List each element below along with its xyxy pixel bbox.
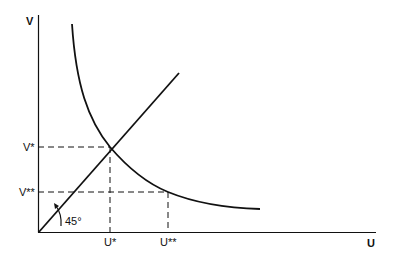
- diagram-canvas: V U V* V** U* U** 45°: [0, 0, 394, 260]
- u-double-star-label: U**: [160, 236, 177, 248]
- diagram-svg: V U V* V** U* U** 45°: [0, 0, 394, 260]
- angle-label: 45°: [65, 215, 82, 227]
- convex-curve: [72, 24, 260, 209]
- v-star-label: V*: [23, 141, 35, 153]
- forty-five-degree-line: [39, 73, 180, 233]
- angle-arrowhead-icon: [54, 203, 59, 209]
- x-axis-label: U: [367, 237, 375, 249]
- v-double-star-label: V**: [19, 186, 36, 198]
- u-star-label: U*: [104, 236, 117, 248]
- y-axis-label: V: [26, 15, 34, 27]
